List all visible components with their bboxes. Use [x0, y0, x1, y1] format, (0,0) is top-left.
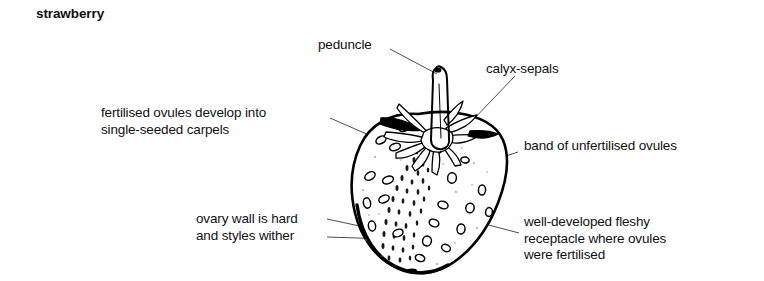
label-calyx-sepals-line-1: calyx-sepals — [486, 61, 558, 78]
label-band-line-1: band of unfertilised ovules — [524, 138, 677, 155]
label-ovary-wall: ovary wall is hard and styles wither — [196, 211, 298, 244]
achene — [478, 185, 486, 195]
label-receptacle: well-developed fleshy receptacle where o… — [524, 214, 666, 264]
label-receptacle-line-1: well-developed fleshy — [524, 214, 666, 231]
label-fertilised-ovules-line-2: single-seeded carpels — [101, 122, 266, 139]
label-receptacle-line-2: receptacle where ovules — [524, 231, 666, 248]
label-ovary-wall-line-1: ovary wall is hard — [196, 211, 298, 228]
leader-peduncle — [390, 49, 437, 74]
peduncle-tip — [435, 67, 442, 72]
achene — [460, 156, 469, 163]
label-band-of-unfertilised-ovules: band of unfertilised ovules — [524, 138, 677, 155]
label-ovary-wall-line-2: and styles wither — [196, 228, 298, 245]
label-receptacle-line-3: were fertilised — [524, 247, 666, 264]
achene — [447, 172, 457, 183]
label-calyx-sepals: calyx-sepals — [486, 61, 558, 78]
label-peduncle: peduncle — [318, 37, 372, 54]
berry-base-mark — [407, 269, 417, 274]
achene — [456, 223, 465, 234]
figure-canvas: strawberry — [0, 0, 764, 281]
label-peduncle-line-1: peduncle — [318, 37, 372, 54]
achene — [485, 207, 493, 217]
achene — [465, 203, 475, 214]
label-fertilised-ovules: fertilised ovules develop into single-se… — [101, 105, 266, 138]
label-fertilised-ovules-line-1: fertilised ovules develop into — [101, 105, 266, 122]
